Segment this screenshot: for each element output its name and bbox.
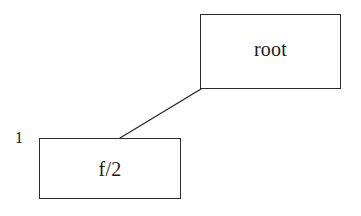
node-root-label: root [254, 39, 287, 59]
diagram-canvas: root f/2 1 [0, 0, 361, 216]
node-child-label: f/2 [99, 159, 122, 179]
edge-root-to-child [120, 89, 201, 138]
annotation-one: 1 [15, 130, 23, 146]
node-root[interactable]: root [200, 14, 341, 89]
node-child-f-2[interactable]: f/2 [39, 138, 181, 199]
